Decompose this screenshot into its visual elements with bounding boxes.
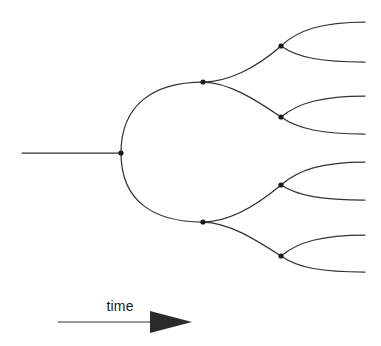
time-axis-label: time [106, 298, 133, 314]
branch-node [200, 79, 205, 84]
branch-node [278, 43, 283, 48]
branch-edge [203, 185, 281, 222]
branch-node [278, 182, 283, 187]
branch-edge [281, 22, 365, 46]
time-axis-group: time [58, 298, 192, 333]
branch-edges-group [121, 22, 365, 272]
arrow-right-icon [150, 311, 192, 333]
branch-edge [203, 222, 281, 256]
branch-edge [203, 82, 281, 117]
branch-edge [281, 96, 365, 117]
branch-node [278, 114, 283, 119]
branch-edge [281, 117, 365, 134]
branch-node [278, 253, 283, 258]
branch-nodes-group [118, 43, 283, 258]
branching-diagram: time [0, 0, 381, 346]
branch-edge [281, 162, 365, 185]
branch-edge [281, 185, 365, 200]
tree-svg: time [0, 0, 381, 346]
branch-edge [281, 256, 365, 272]
branch-edge [281, 46, 365, 62]
branch-edge [281, 235, 365, 256]
branch-node [200, 219, 205, 224]
branch-edge [121, 153, 203, 222]
branch-node [118, 150, 123, 155]
branch-edge [203, 46, 281, 82]
branch-edge [121, 82, 203, 153]
